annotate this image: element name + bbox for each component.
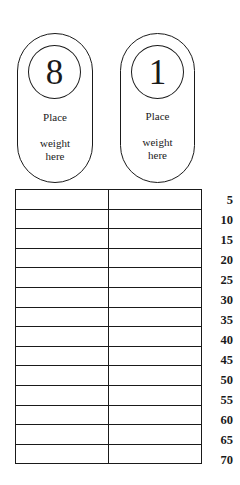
table-row (16, 307, 202, 327)
weight-label: weight (18, 137, 92, 150)
table-cell[interactable] (16, 444, 109, 464)
row-label: 60 (205, 409, 233, 429)
table-cell[interactable] (16, 209, 109, 229)
row-label: 10 (205, 209, 233, 229)
table-cell[interactable] (16, 346, 109, 366)
table-cell[interactable] (109, 229, 202, 249)
row-label: 15 (205, 229, 233, 249)
row-labels: 5 10 15 20 25 30 35 40 45 50 55 60 65 70 (205, 189, 233, 469)
table-cell[interactable] (109, 425, 202, 445)
row-label: 55 (205, 389, 233, 409)
table-cell[interactable] (16, 248, 109, 268)
table-cell[interactable] (109, 405, 202, 425)
table-row (16, 248, 202, 268)
row-label: 50 (205, 369, 233, 389)
table-cell[interactable] (109, 327, 202, 347)
table-cell[interactable] (16, 229, 109, 249)
table-row (16, 346, 202, 366)
table-cell[interactable] (109, 287, 202, 307)
here-label: here (18, 150, 92, 163)
row-label: 30 (205, 289, 233, 309)
row-label: 20 (205, 249, 233, 269)
weight-number: 8 (46, 55, 64, 90)
table-row (16, 327, 202, 347)
table-cell[interactable] (16, 385, 109, 405)
table-cell[interactable] (109, 385, 202, 405)
table-cell[interactable] (16, 405, 109, 425)
table-row (16, 229, 202, 249)
table-row (16, 287, 202, 307)
table-cell[interactable] (16, 327, 109, 347)
row-label: 70 (205, 449, 233, 469)
row-label: 35 (205, 309, 233, 329)
weight-slot-8[interactable]: 8 Place weight here (17, 33, 93, 183)
table-cell[interactable] (109, 346, 202, 366)
here-label: here (121, 149, 194, 162)
place-label: Place (121, 110, 194, 123)
table-cell[interactable] (109, 268, 202, 288)
place-label: Place (18, 111, 92, 124)
weight-label: weight (121, 136, 194, 149)
weight-number: 1 (149, 55, 167, 90)
table-cell[interactable] (109, 209, 202, 229)
row-label: 5 (205, 189, 233, 209)
table-cell[interactable] (16, 287, 109, 307)
table-cell[interactable] (16, 425, 109, 445)
table-row (16, 425, 202, 445)
table-cell[interactable] (109, 248, 202, 268)
table-row (16, 190, 202, 210)
table-cell[interactable] (16, 268, 109, 288)
table-cell[interactable] (109, 366, 202, 386)
table-cell[interactable] (109, 307, 202, 327)
table-row (16, 405, 202, 425)
tally-table (15, 189, 202, 464)
weight-number-circle: 1 (131, 45, 184, 99)
row-label: 40 (205, 329, 233, 349)
table-cell[interactable] (16, 190, 109, 210)
table-row (16, 366, 202, 386)
table-row (16, 268, 202, 288)
table-cell[interactable] (16, 307, 109, 327)
table-row (16, 444, 202, 464)
row-label: 45 (205, 349, 233, 369)
table-cell[interactable] (109, 190, 202, 210)
table-cell[interactable] (16, 366, 109, 386)
weight-slot-1[interactable]: 1 Place weight here (120, 33, 195, 183)
weight-number-circle: 8 (28, 45, 81, 99)
table-cell[interactable] (109, 444, 202, 464)
table-row (16, 385, 202, 405)
row-label: 65 (205, 429, 233, 449)
row-label: 25 (205, 269, 233, 289)
table-row (16, 209, 202, 229)
